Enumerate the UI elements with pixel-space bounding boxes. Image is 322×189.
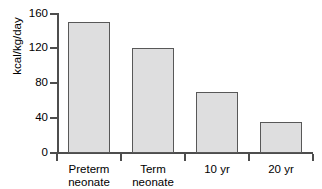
- x-axis-category-label-line: neonate: [121, 176, 185, 189]
- y-axis-tick: [50, 47, 57, 49]
- x-axis-tick: [312, 154, 314, 161]
- x-axis-tick: [56, 154, 58, 161]
- x-axis-tick: [248, 154, 250, 161]
- bar: [132, 48, 174, 153]
- bar: [196, 92, 238, 153]
- x-axis-category-label-line: 10 yr: [185, 163, 249, 176]
- bar: [260, 122, 302, 153]
- x-axis-category-label-line: Preterm: [57, 163, 121, 176]
- x-axis-category-label: Pretermneonate: [57, 163, 121, 188]
- x-axis-category-label: 20 yr: [249, 163, 313, 176]
- x-axis-category-label-line: Term: [121, 163, 185, 176]
- x-axis-category-label-line: neonate: [57, 176, 121, 189]
- y-axis-tick: [50, 13, 57, 15]
- x-axis-category-label: 10 yr: [185, 163, 249, 176]
- y-axis-line: [57, 13, 59, 154]
- x-axis-category-label: Termneonate: [121, 163, 185, 188]
- y-axis-tick: [50, 82, 57, 84]
- y-axis-tick: [50, 117, 57, 119]
- x-axis-category-label-line: 20 yr: [249, 163, 313, 176]
- y-axis-tick-label: 40: [2, 112, 48, 123]
- y-axis-tick-label: 120: [2, 42, 48, 53]
- y-axis-tick-label: 0: [2, 147, 48, 158]
- x-axis-tick: [120, 154, 122, 161]
- bar-chart: kcal/kg/day 04080120160 PretermneonateTe…: [0, 0, 322, 189]
- y-axis-tick-label: 80: [2, 77, 48, 88]
- bar: [68, 22, 110, 153]
- x-axis-tick: [184, 154, 186, 161]
- y-axis-tick-label: 160: [2, 8, 48, 19]
